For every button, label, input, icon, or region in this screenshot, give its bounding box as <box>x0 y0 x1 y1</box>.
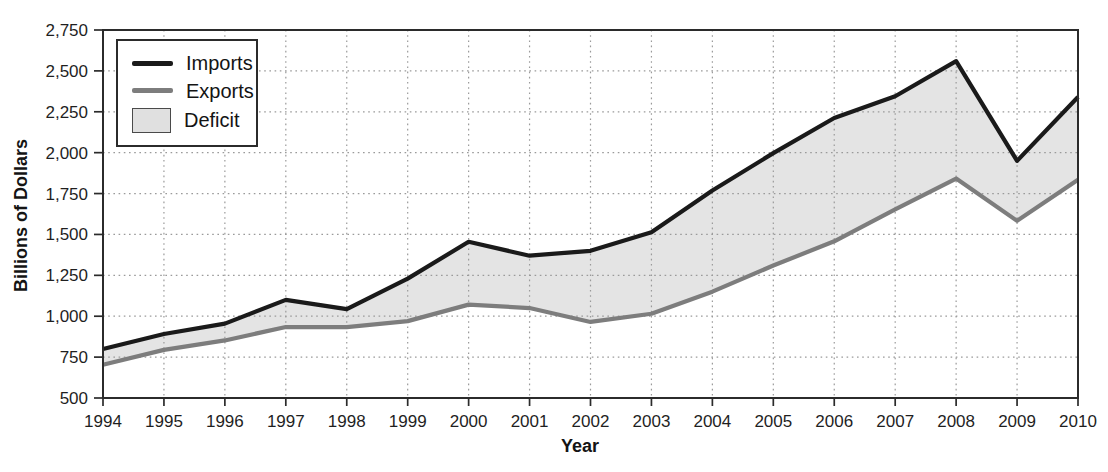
legend-item-imports: Imports <box>132 53 252 73</box>
svg-text:2001: 2001 <box>511 412 549 431</box>
legend-item-deficit: Deficit <box>132 108 252 133</box>
svg-text:2000: 2000 <box>450 412 488 431</box>
svg-text:750: 750 <box>60 348 88 367</box>
deficit-area-swatch <box>132 108 171 133</box>
svg-text:1,750: 1,750 <box>45 185 88 204</box>
svg-text:2004: 2004 <box>693 412 731 431</box>
svg-text:1,250: 1,250 <box>45 266 88 285</box>
svg-text:500: 500 <box>60 389 88 408</box>
x-axis-title: Year <box>480 436 680 457</box>
imports-line-swatch <box>132 61 173 66</box>
svg-text:1998: 1998 <box>328 412 366 431</box>
svg-text:1997: 1997 <box>267 412 305 431</box>
svg-text:1996: 1996 <box>206 412 244 431</box>
svg-text:2008: 2008 <box>937 412 975 431</box>
svg-text:1,000: 1,000 <box>45 307 88 326</box>
svg-text:1994: 1994 <box>84 412 122 431</box>
svg-text:2002: 2002 <box>572 412 610 431</box>
svg-text:2005: 2005 <box>754 412 792 431</box>
svg-text:2,000: 2,000 <box>45 144 88 163</box>
svg-text:2,250: 2,250 <box>45 103 88 122</box>
svg-text:2006: 2006 <box>815 412 853 431</box>
y-axis-title: Billions of Dollars <box>11 106 32 326</box>
trade-balance-figure: 5007501,0001,2501,5001,7502,0002,2502,50… <box>0 0 1108 472</box>
svg-text:2003: 2003 <box>633 412 671 431</box>
legend-label-exports: Exports <box>186 81 254 101</box>
svg-text:2,750: 2,750 <box>45 21 88 40</box>
y-tick-labels: 5007501,0001,2501,5001,7502,0002,2502,50… <box>45 21 88 408</box>
svg-text:1,500: 1,500 <box>45 225 88 244</box>
exports-line-swatch <box>132 88 173 93</box>
svg-text:2010: 2010 <box>1059 412 1097 431</box>
svg-text:1999: 1999 <box>389 412 427 431</box>
legend-label-imports: Imports <box>186 53 253 73</box>
svg-text:2007: 2007 <box>876 412 914 431</box>
svg-text:2,500: 2,500 <box>45 62 88 81</box>
x-tick-labels: 1994199519961997199819992000200120022003… <box>84 412 1097 431</box>
svg-text:2009: 2009 <box>998 412 1036 431</box>
legend-label-deficit: Deficit <box>184 110 240 130</box>
legend-item-exports: Exports <box>132 81 252 101</box>
svg-text:1995: 1995 <box>145 412 183 431</box>
legend: Imports Exports Deficit <box>116 39 258 147</box>
